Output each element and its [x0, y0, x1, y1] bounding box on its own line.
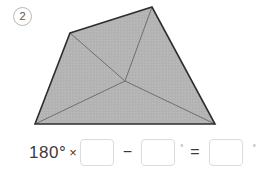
answer-input-2[interactable] [141, 139, 175, 166]
degree-icon-after-input-3: ° [253, 143, 256, 152]
multiply-icon: × [69, 145, 77, 160]
degree-icon-after-input-2: ° [180, 143, 183, 152]
equation-row: 180° × − ° = ° [0, 130, 265, 174]
answer-input-1[interactable] [80, 139, 114, 166]
answer-input-3[interactable] [209, 139, 243, 166]
figure-area [0, 0, 265, 132]
equation-leading-number: 180° [29, 144, 66, 161]
quadrilateral-figure [0, 0, 265, 132]
equation-leading-value: 180 [29, 143, 59, 162]
quadrilateral-fill [35, 7, 215, 124]
degree-icon-leading: ° [59, 143, 66, 162]
minus-icon: − [123, 143, 132, 161]
equals-icon: = [190, 143, 199, 161]
